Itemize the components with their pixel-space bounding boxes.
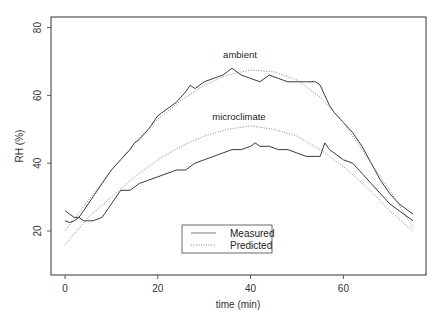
x-tick-label: 40	[245, 283, 257, 294]
x-tick-label: 20	[152, 283, 164, 294]
y-axis-label: RH (%)	[14, 130, 25, 163]
y-tick-label: 20	[32, 225, 43, 237]
chart: 0204060 20406080 time (min) RH (%) ambie…	[0, 0, 446, 328]
legend: Measured Predicted	[182, 225, 274, 253]
legend-measured-label: Measured	[230, 228, 274, 239]
y-tick-label: 60	[32, 89, 43, 101]
legend-predicted-label: Predicted	[230, 240, 272, 251]
x-tick-label: 0	[62, 283, 68, 294]
annotation-ambient: ambient	[223, 49, 257, 60]
y-tick-label: 40	[32, 157, 43, 169]
annotation-microclimate: microclimate	[212, 111, 265, 122]
y-tick-label: 80	[32, 22, 43, 34]
x-axis-label: time (min)	[216, 299, 260, 310]
x-tick-label: 60	[338, 283, 350, 294]
